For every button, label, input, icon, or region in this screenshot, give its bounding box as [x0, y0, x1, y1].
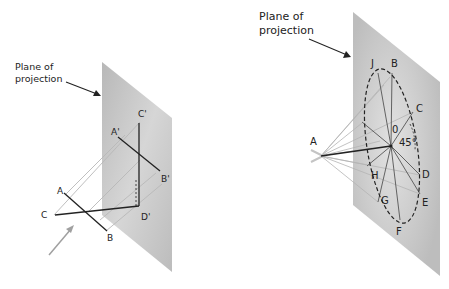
point-c-right: C: [416, 103, 423, 114]
left-view-arrow-icon: [49, 225, 74, 255]
point-c: C: [41, 210, 47, 220]
right-figure: Plane of projection A J B C 0 45° D H G …: [259, 10, 440, 276]
point-d: D: [422, 169, 430, 180]
point-e: E: [422, 197, 428, 208]
point-f: F: [396, 226, 402, 237]
left-plane-label-1: Plane of: [15, 61, 54, 72]
left-plane-label-2: projection: [15, 73, 62, 84]
right-plane-pointer-icon: [309, 39, 351, 58]
point-a: A: [57, 186, 64, 196]
right-plane-label-1: Plane of: [259, 10, 304, 23]
point-c-prime: C': [138, 109, 147, 119]
point-j: J: [370, 58, 374, 69]
right-plane-label-2: projection: [259, 24, 314, 37]
left-plane-pointer-icon: [66, 82, 101, 96]
point-b: B: [107, 233, 113, 243]
point-a-prime: A': [111, 127, 120, 137]
point-g: G: [381, 195, 389, 206]
point-d-prime: D': [141, 212, 150, 222]
point-b-right: B: [391, 58, 398, 69]
point-o: 0: [392, 124, 398, 135]
center-point-o: [389, 144, 392, 147]
angle-label: 45°: [399, 137, 417, 148]
projection-diagram: Plane of projection A C B A' C' B' D': [0, 0, 449, 289]
point-b-prime: B': [161, 174, 170, 184]
left-figure: Plane of projection A C B A' C' B' D': [15, 61, 172, 272]
point-a-right: A: [310, 136, 317, 147]
point-h: H: [371, 170, 379, 181]
